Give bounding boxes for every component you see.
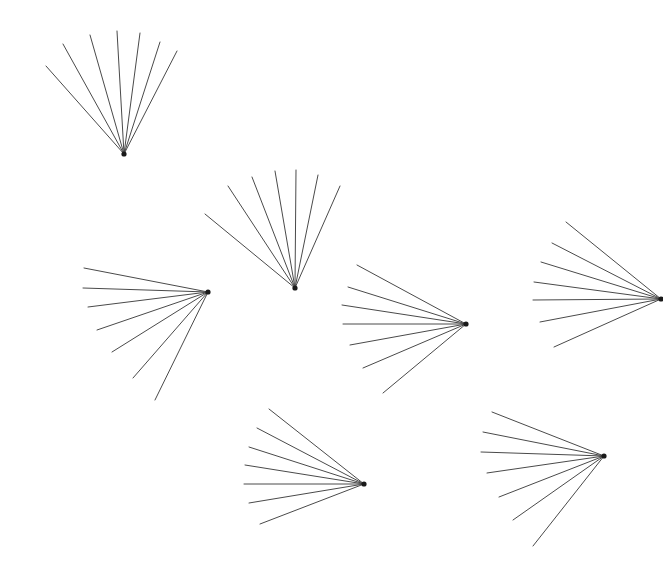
fan-upper-middle-ray-5 — [295, 170, 296, 288]
fan-bottom-left-apex-dot — [361, 481, 366, 486]
fan-top-left-ray-7 — [124, 51, 177, 154]
fan-upper-middle-ray-7 — [295, 186, 340, 288]
fan-center-ray-5 — [350, 324, 466, 345]
fan-left-middle-apex-dot — [205, 289, 210, 294]
fan-upper-middle-ray-6 — [295, 175, 318, 288]
fan-bottom-right-apex-dot — [601, 453, 606, 458]
fan-bottom-right-ray-1 — [492, 412, 604, 456]
fan-top-left-ray-5 — [124, 33, 140, 154]
fan-right-ray-3 — [541, 262, 661, 299]
fan-bottom-left-ray-7 — [260, 484, 364, 524]
fan-left-middle — [83, 268, 211, 400]
fan-right-ray-4 — [534, 282, 661, 299]
fan-top-left-ray-6 — [124, 42, 160, 154]
fan-right-ray-2 — [552, 243, 661, 299]
fan-bottom-right-ray-6 — [513, 456, 604, 520]
fan-bottom-left-ray-1 — [269, 409, 364, 484]
fan-bottom-left-ray-3 — [249, 447, 364, 484]
fan-bottom-left — [244, 409, 367, 524]
fan-center-ray-7 — [383, 324, 466, 393]
fan-top-left — [46, 31, 177, 157]
fan-center — [342, 265, 469, 393]
fan-upper-middle — [205, 170, 340, 291]
fan-ray-figure — [0, 0, 663, 588]
fan-top-left-ray-4 — [117, 31, 124, 154]
fan-right-ray-5 — [533, 299, 661, 300]
fan-top-left-ray-2 — [63, 44, 124, 154]
fan-top-left-apex-dot — [121, 151, 126, 156]
fan-bottom-left-ray-6 — [249, 484, 364, 503]
figure-canvas — [0, 0, 663, 588]
fan-top-left-ray-1 — [46, 66, 124, 154]
fan-top-left-ray-3 — [90, 35, 124, 154]
fan-center-apex-dot — [463, 321, 468, 326]
fan-upper-middle-ray-4 — [275, 171, 295, 288]
fan-center-ray-6 — [363, 324, 466, 368]
fan-right — [533, 222, 663, 347]
fan-bottom-right — [481, 412, 607, 546]
fan-bottom-right-ray-4 — [487, 456, 604, 473]
fan-right-ray-1 — [566, 222, 661, 299]
fan-right-ray-6 — [540, 299, 661, 322]
fan-right-ray-7 — [554, 299, 661, 347]
fan-left-middle-ray-3 — [88, 292, 208, 307]
shapes-layer — [46, 31, 663, 546]
fan-upper-middle-apex-dot — [292, 285, 297, 290]
fan-upper-middle-ray-1 — [205, 214, 295, 288]
